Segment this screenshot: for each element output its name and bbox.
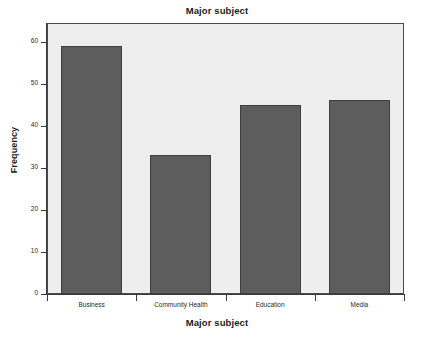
x-axis-title: Major subject [0, 317, 434, 328]
chart-title: Major subject [0, 5, 434, 16]
x-tick-label-media: Media [315, 301, 404, 308]
bar-chart-figure: Major subject 0102030405060 BusinessComm… [0, 0, 434, 339]
y-tick-label: 30 [31, 164, 38, 171]
y-tick-label: 0 [34, 290, 38, 297]
x-tick-label-business: Business [47, 301, 136, 308]
bar-media[interactable] [329, 100, 390, 294]
y-axis-line [46, 23, 47, 295]
y-tick-label: 40 [31, 122, 38, 129]
y-tick-label: 50 [31, 80, 38, 87]
bar-education[interactable] [240, 105, 301, 294]
y-tick-label: 20 [31, 206, 38, 213]
y-tick-mark [41, 42, 47, 43]
y-tick-mark [41, 84, 47, 85]
y-tick-label: 60 [31, 38, 38, 45]
bar-community-health[interactable] [150, 155, 211, 294]
bar-business[interactable] [61, 46, 122, 294]
y-tick-mark [41, 126, 47, 127]
x-tick-label-education: Education [226, 301, 315, 308]
y-tick-mark [41, 252, 47, 253]
y-tick-mark [41, 168, 47, 169]
x-tick-mark [404, 295, 405, 301]
y-tick-mark [41, 210, 47, 211]
x-tick-label-community-health: Community Health [136, 301, 225, 308]
y-tick-label: 10 [31, 248, 38, 255]
y-axis-title: Frequency [9, 110, 19, 190]
